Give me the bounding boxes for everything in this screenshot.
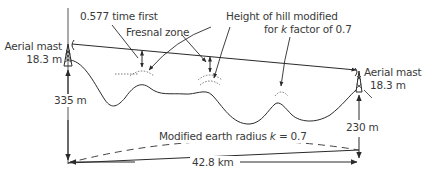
fresnel-zone-label-line1: 0.577 time first: [80, 10, 158, 23]
hill-modified-label-line2: for k factor of 0.7: [264, 23, 352, 36]
fresnel-leader-3: [182, 35, 206, 62]
distance-label: 42.8 km: [190, 156, 236, 169]
hill-modified-label-line1: Height of hill modified: [226, 10, 338, 23]
right-mast-label: Aerial mast 18.3 m: [364, 66, 421, 92]
hill-leader-1: [214, 27, 230, 78]
earth-curve-label: Modified earth radius k = 0.7: [157, 130, 309, 143]
terrain-profile: [70, 60, 356, 124]
left-ground-height-label: 335 m: [52, 94, 89, 107]
right-ground-height-label: 230 m: [344, 121, 381, 134]
fresnel-zone-label-line2: Fresnal zone: [126, 26, 189, 39]
line-of-sight: [72, 44, 356, 70]
left-mast-label: Aerial mast 18.3 m: [0, 40, 62, 66]
hill-leader-2: [281, 37, 290, 86]
radio-path-profile-diagram: [0, 0, 422, 181]
